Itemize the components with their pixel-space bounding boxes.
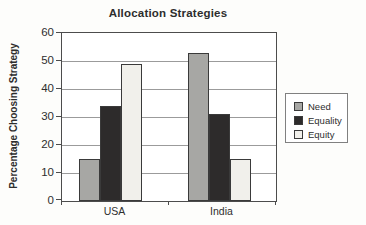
y-tick-label-20: 20: [20, 138, 54, 151]
y-tick-label-50: 50: [20, 54, 54, 67]
chart-figure: Allocation Strategies Percentage Choosin…: [0, 0, 366, 225]
legend-label-equality: Equality: [308, 115, 342, 126]
gridline-40: [62, 89, 276, 90]
x-category-label-india: India: [168, 205, 275, 219]
legend-swatch-equality: [294, 116, 303, 125]
y-tick-mark-20: [56, 144, 61, 145]
y-tick-mark-60: [56, 32, 61, 33]
y-tick-label-40: 40: [20, 82, 54, 95]
gridline-50: [62, 61, 276, 62]
plot-area: [61, 32, 277, 202]
bar-usa-equity: [121, 64, 142, 201]
y-tick-label-60: 60: [20, 26, 54, 39]
bar-india-equality: [209, 114, 230, 201]
legend-label-equity: Equity: [308, 129, 334, 140]
gridline-30: [62, 117, 276, 118]
bar-india-equity: [230, 159, 251, 201]
y-tick-mark-30: [56, 116, 61, 117]
y-tick-label-10: 10: [20, 166, 54, 179]
legend: NeedEqualityEquity: [285, 93, 348, 143]
chart-title: Allocation Strategies: [61, 7, 275, 19]
legend-label-need: Need: [308, 101, 331, 112]
legend-item-equality: Equality: [294, 114, 347, 127]
legend-swatch-equity: [294, 130, 303, 139]
gridline-20: [62, 145, 276, 146]
legend-item-equity: Equity: [294, 128, 347, 141]
y-tick-mark-40: [56, 88, 61, 89]
bar-india-need: [188, 53, 209, 201]
y-axis-label: Percentage Choosing Strategy: [8, 43, 19, 189]
y-tick-label-0: 0: [20, 194, 54, 207]
y-tick-mark-0: [56, 199, 61, 200]
y-tick-mark-50: [56, 60, 61, 61]
legend-swatch-need: [294, 102, 303, 111]
bar-usa-need: [79, 159, 100, 201]
y-tick-mark-10: [56, 172, 61, 173]
bar-usa-equality: [100, 106, 121, 201]
x-category-label-usa: USA: [61, 205, 168, 219]
x-category-labels: USA India: [61, 205, 275, 219]
legend-item-need: Need: [294, 100, 347, 113]
y-tick-label-30: 30: [20, 110, 54, 123]
